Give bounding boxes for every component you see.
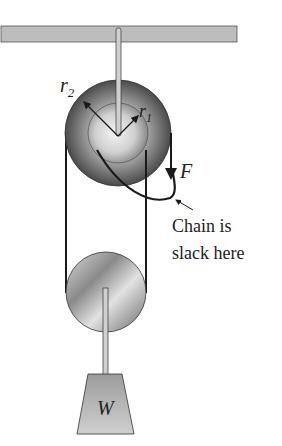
pulley-diagram: r2 r1 F Chain is slack here W <box>0 0 282 446</box>
lower-rod <box>103 288 108 376</box>
annotation-line1: Chain is <box>172 216 232 236</box>
label-r2: r2 <box>60 74 75 100</box>
support-rod <box>116 28 121 136</box>
annotation-line2: slack here <box>172 243 244 263</box>
label-force: F <box>179 160 193 182</box>
annotation-arrow <box>176 200 193 210</box>
label-weight: W <box>97 397 116 419</box>
